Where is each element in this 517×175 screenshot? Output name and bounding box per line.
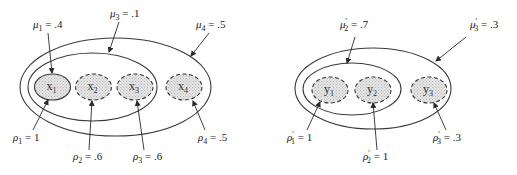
mu-label: μ1 = .4 <box>32 18 63 33</box>
rho-arrow <box>307 102 320 130</box>
rho-label: ρ′3 = .3 <box>432 130 461 146</box>
node-y2: y2 <box>355 77 391 103</box>
rho-label: ρ4 = .5 <box>197 131 228 146</box>
node-x4: x4 <box>166 74 202 100</box>
right-diagram: y1y2y3μ′2 = .7μ′3 = .3ρ′1 = 1ρ′2 = 1ρ′3 … <box>286 17 499 165</box>
rho-arrow <box>89 101 92 150</box>
node-x3: x3 <box>117 74 153 100</box>
rho-arrow <box>434 103 446 130</box>
mu-arrow <box>109 22 119 52</box>
rho-label: ρ2 = .6 <box>72 150 103 165</box>
rho-arrow <box>193 101 205 130</box>
rho-label: ρ1 = 1 <box>12 131 40 146</box>
mu-label: μ4 = .5 <box>195 18 226 33</box>
rho-arrow <box>33 100 48 130</box>
set-diagram-canvas: x1x2x3x4μ1 = .4μ3 = .1μ4 = .5ρ1 = 1ρ2 = … <box>0 0 517 175</box>
mu-arrow <box>191 33 209 56</box>
rho-label: ρ3 = .6 <box>132 150 163 165</box>
mu-label: μ′2 = .7 <box>339 17 369 33</box>
mu-arrow <box>436 37 466 61</box>
node-y1: y1 <box>312 77 348 103</box>
rho-arrow <box>373 103 377 150</box>
mu-arrow <box>48 33 52 73</box>
rho-label: ρ′1 = 1 <box>286 130 312 146</box>
mu-label: μ3 = .1 <box>109 7 140 22</box>
node-y3: y3 <box>411 77 447 103</box>
mu-label: μ′3 = .3 <box>469 17 499 33</box>
rho-label: ρ′2 = 1 <box>362 149 388 165</box>
node-x1: x1 <box>35 74 71 100</box>
node-x2: x2 <box>76 74 112 100</box>
left-diagram: x1x2x3x4μ1 = .4μ3 = .1μ4 = .5ρ1 = 1ρ2 = … <box>12 7 228 165</box>
